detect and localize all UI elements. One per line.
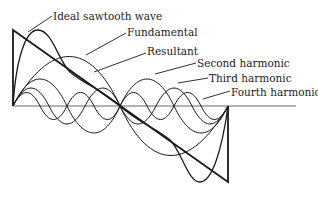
sawtooth-diagram: Ideal sawtooth wave Fundamental Resultan… [0, 0, 318, 202]
label-resultant: Resultant [147, 46, 198, 57]
leader-second [155, 63, 196, 74]
leader-fundamental [86, 33, 126, 55]
label-second-harmonic: Second harmonic [197, 58, 290, 69]
label-third-harmonic: Third harmonic [209, 73, 292, 84]
leader-third [178, 78, 208, 83]
leader-fourth [203, 91, 230, 99]
label-fundamental: Fundamental [127, 27, 198, 38]
leader-resultant [94, 53, 146, 72]
label-fourth-harmonic: Fourth harmonic [231, 87, 318, 98]
label-ideal-sawtooth: Ideal sawtooth wave [53, 11, 162, 22]
